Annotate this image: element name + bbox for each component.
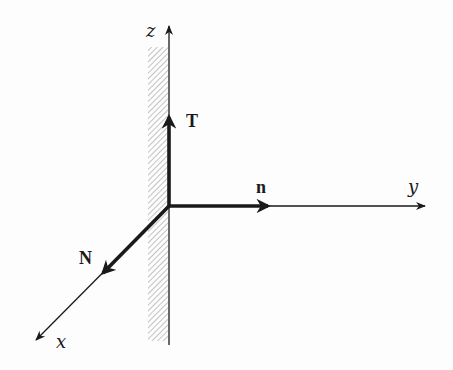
vector-N-label: N <box>79 248 92 268</box>
diagram-canvas: z y x T n N <box>0 0 453 370</box>
z-axis-label: z <box>145 20 156 41</box>
y-axis-label: y <box>407 176 419 197</box>
vector-T-label: T <box>186 111 198 131</box>
x-axis-label: x <box>56 331 66 352</box>
wall-surface <box>148 47 168 341</box>
vector-n-label: n <box>256 177 266 197</box>
coordinate-frame-diagram: z y x T n N <box>0 0 453 370</box>
